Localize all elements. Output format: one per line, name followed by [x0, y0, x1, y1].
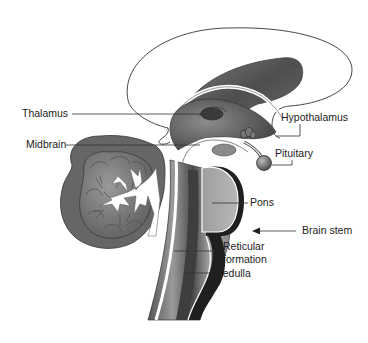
brain-illustration [0, 0, 368, 343]
label-brain-stem: Brain stem [302, 224, 352, 236]
brain-stem-arrowhead [252, 228, 260, 235]
label-thalamus: Thalamus [22, 107, 68, 119]
label-medulla: Medulla [214, 267, 251, 279]
pituitary-gland [257, 156, 272, 171]
label-pituitary: Pituitary [275, 147, 313, 159]
label-midbrain: Midbrain [26, 138, 66, 150]
label-hypothalamus: Hypothalamus [281, 111, 348, 123]
label-pons: Pons [250, 196, 274, 208]
brain-stem-diagram: Thalamus Midbrain Hypothalamus Pituitary… [0, 0, 368, 343]
label-reticular-formation-line2: formation [223, 253, 267, 265]
label-reticular-formation-line1: Reticular [223, 240, 264, 252]
